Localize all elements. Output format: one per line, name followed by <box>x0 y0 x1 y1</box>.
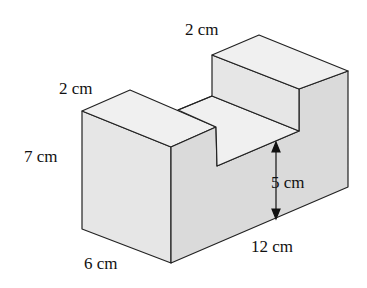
label-height: 7 cm <box>24 148 58 165</box>
label-length: 12 cm <box>251 238 293 255</box>
label-top-left-width: 2 cm <box>59 80 93 97</box>
label-notch-depth: 5 cm <box>271 174 305 191</box>
label-top-right-width: 2 cm <box>185 21 219 38</box>
label-depth: 6 cm <box>84 255 118 272</box>
solid-diagram <box>0 0 367 288</box>
